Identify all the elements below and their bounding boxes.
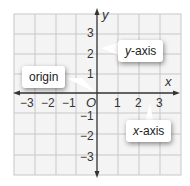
coordinate-grid [0, 0, 190, 186]
y-tick-3: 3 [87, 27, 94, 39]
y-axis-callout-suffix: -axis [131, 44, 156, 58]
y-tick-2: 2 [87, 48, 94, 60]
y-tick-neg2: −2 [80, 130, 94, 142]
origin-callout-text: origin [29, 70, 58, 84]
origin-callout: origin [22, 66, 65, 88]
x-tick-3: 3 [156, 97, 163, 109]
x-tick-2: 2 [135, 97, 142, 109]
x-axis-callout: x-axis [126, 120, 171, 142]
x-tick-neg1: −1 [62, 97, 76, 109]
origin-letter: O [86, 96, 96, 109]
y-tick-neg3: −3 [80, 151, 94, 163]
y-axis-callout: y-axis [118, 40, 163, 62]
y-tick-1: 1 [87, 68, 94, 80]
x-axis-letter: x [165, 75, 172, 88]
x-tick-neg2: −2 [41, 97, 55, 109]
y-axis-up-arrow-icon [95, 8, 100, 15]
x-tick-1: 1 [114, 97, 121, 109]
x-tick-neg3: −3 [20, 97, 34, 109]
x-axis-callout-suffix: -axis [139, 124, 164, 138]
y-tick-neg1: −1 [80, 110, 94, 122]
y-axis-letter: y [102, 8, 109, 21]
